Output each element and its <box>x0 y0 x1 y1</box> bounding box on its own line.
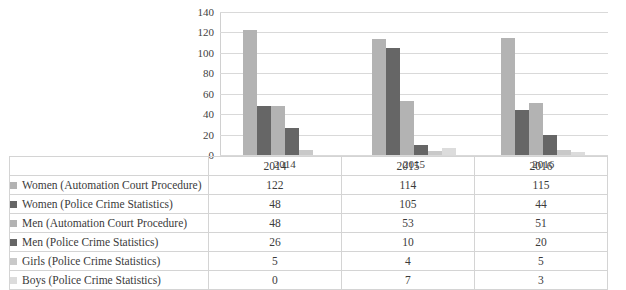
table-value-cell: 51 <box>474 214 607 233</box>
bar <box>515 110 529 155</box>
table-value-cell: 48 <box>208 195 341 214</box>
table-value-cell: 20 <box>474 233 607 252</box>
legend-swatch-icon <box>10 220 17 227</box>
table-value-cell: 115 <box>474 176 607 195</box>
table-value-cell: 5 <box>474 252 607 271</box>
bar <box>442 148 456 155</box>
table-row: Girls (Police Crime Statistics)545 <box>10 252 608 271</box>
bar <box>299 150 313 155</box>
bar <box>414 145 428 155</box>
legend-label-cell: Women (Automation Court Procedure) <box>10 176 209 195</box>
bar-group <box>243 12 327 155</box>
bar <box>543 135 557 155</box>
table-value-cell: 0 <box>208 271 341 290</box>
bar <box>257 106 271 155</box>
legend-swatch-icon <box>10 201 17 208</box>
table-value-cell: 105 <box>341 195 474 214</box>
table-row: Men (Automation Court Procedure)485351 <box>10 214 608 233</box>
chart-data-table: 201420152016Women (Automation Court Proc… <box>9 156 608 290</box>
table-value-cell: 44 <box>474 195 607 214</box>
bar <box>428 151 442 155</box>
bar <box>400 101 414 155</box>
legend-series-label: Girls (Police Crime Statistics) <box>22 255 160 267</box>
table-value-cell: 4 <box>341 252 474 271</box>
table-row: Women (Police Crime Statistics)4810544 <box>10 195 608 214</box>
legend-series-label: Men (Police Crime Statistics) <box>22 236 158 248</box>
plot-area <box>220 12 608 155</box>
table-corner-cell <box>10 157 209 176</box>
legend-series-label: Men (Automation Court Procedure) <box>22 217 187 229</box>
table-value-cell: 48 <box>208 214 341 233</box>
table-row: Boys (Police Crime Statistics)073 <box>10 271 608 290</box>
table-value-cell: 26 <box>208 233 341 252</box>
bar <box>271 106 285 155</box>
table-value-cell: 5 <box>208 252 341 271</box>
legend-label-cell: Girls (Police Crime Statistics) <box>10 252 209 271</box>
table-row: Men (Police Crime Statistics)261020 <box>10 233 608 252</box>
table-column-header: 2015 <box>341 157 474 176</box>
table-value-cell: 7 <box>341 271 474 290</box>
table-header-row: 201420152016 <box>10 157 608 176</box>
legend-swatch-icon <box>10 277 17 284</box>
legend-label-cell: Women (Police Crime Statistics) <box>10 195 209 214</box>
bar <box>372 39 386 155</box>
y-axis-tick-label: 20 <box>180 130 214 141</box>
legend-label-cell: Men (Automation Court Procedure) <box>10 214 209 233</box>
y-axis-tick-label: 60 <box>180 89 214 100</box>
bar <box>571 152 585 155</box>
bar-group <box>372 12 456 155</box>
table-value-cell: 114 <box>341 176 474 195</box>
legend-series-label: Boys (Police Crime Statistics) <box>22 274 161 286</box>
table-row: Women (Automation Court Procedure)122114… <box>10 176 608 195</box>
legend-swatch-icon <box>10 239 17 246</box>
table-column-header: 2014 <box>208 157 341 176</box>
y-axis-tick-label: 120 <box>180 27 214 38</box>
table-value-cell: 53 <box>341 214 474 233</box>
legend-label-cell: Boys (Police Crime Statistics) <box>10 271 209 290</box>
bar <box>386 48 400 155</box>
legend-swatch-icon <box>10 182 17 189</box>
y-axis-tick-label: 80 <box>180 68 214 79</box>
y-axis-tick-label: 40 <box>180 109 214 120</box>
bar-group <box>501 12 585 155</box>
legend-label-cell: Men (Police Crime Statistics) <box>10 233 209 252</box>
bar <box>243 30 257 155</box>
y-axis-tick-label: 140 <box>180 7 214 18</box>
bar <box>285 128 299 155</box>
bar <box>557 150 571 155</box>
table-value-cell: 3 <box>474 271 607 290</box>
legend-swatch-icon <box>10 258 17 265</box>
y-axis-tick-labels: 140120100806040200 <box>180 12 214 155</box>
legend-series-label: Women (Automation Court Procedure) <box>22 179 202 191</box>
bar <box>529 103 543 155</box>
chart-data-table-body: 201420152016Women (Automation Court Proc… <box>10 157 608 290</box>
bar <box>501 38 515 155</box>
y-axis-tick-label: 100 <box>180 48 214 59</box>
table-value-cell: 122 <box>208 176 341 195</box>
table-value-cell: 10 <box>341 233 474 252</box>
legend-series-label: Women (Police Crime Statistics) <box>22 198 173 210</box>
table-column-header: 2016 <box>474 157 607 176</box>
